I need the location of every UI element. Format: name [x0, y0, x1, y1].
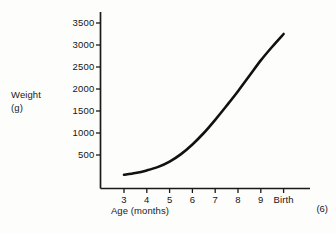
y-axis-tick-label: 1500	[49, 105, 95, 116]
x-axis-title: Age (months)	[0, 205, 336, 216]
y-axis-tick-label: 2000	[49, 83, 95, 94]
y-axis-tick-label: 500	[49, 149, 95, 160]
y-axis-tick-label: 2500	[49, 61, 95, 72]
x-axis-tick-label: Birth	[264, 194, 304, 205]
y-axis-tick-label: 3000	[49, 39, 95, 50]
page-marker: (6)	[316, 203, 328, 214]
chart-figure: Weight (g) 500100015002000250030003500 3…	[0, 0, 336, 233]
y-axis-tick-label: 1000	[49, 127, 95, 138]
x-axis-title-text: Age (months)	[111, 205, 169, 216]
data-curve-fetal-weight	[124, 34, 284, 175]
y-axis-tick-label: 3500	[49, 17, 95, 28]
